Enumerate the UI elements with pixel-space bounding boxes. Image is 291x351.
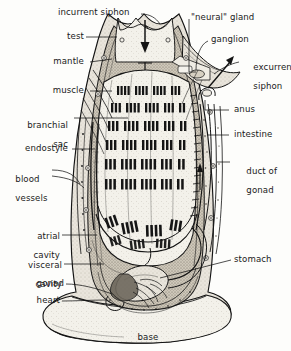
anus-opening (203, 90, 212, 96)
label-excurrent-siphon-line2: siphon (253, 81, 282, 91)
label-stomach: stomach (234, 255, 272, 265)
label-atrial-cavity-line1: atrial (37, 231, 60, 241)
anatomy-figure: incurrent siphon test mantle muscle bran… (0, 0, 291, 351)
label-test: test (36, 32, 84, 42)
label-intestine: intestine (234, 130, 272, 140)
label-blood-vessels: blood vessels (4, 165, 64, 213)
label-duct-of-gonad-line1: duct of (246, 166, 277, 176)
label-duct-of-gonad-line2: gonad (246, 185, 273, 195)
label-base: base (120, 333, 176, 343)
label-heart: heart (18, 296, 60, 306)
label-mantle: mantle (26, 57, 84, 67)
label-ganglion: ganglion (211, 35, 249, 45)
label-visceral-cavity-line1: visceral (28, 260, 62, 270)
label-anus: anus (234, 105, 255, 115)
label-excurrent-siphon: excurrent siphon (242, 53, 291, 101)
label-neural-gland: "neural" gland (191, 13, 254, 23)
label-branchial-sac-line1: branchial (27, 120, 68, 130)
label-endostyle: endostyle (6, 144, 68, 154)
label-gonad: gonad (20, 279, 64, 289)
label-excurrent-siphon-line1: excurrent (253, 62, 291, 72)
label-blood-vessels-line1: blood (15, 174, 39, 184)
label-duct-of-gonad: duct of gonad (235, 157, 277, 205)
label-blood-vessels-line2: vessels (15, 193, 47, 203)
label-incurrent-siphon: incurrent siphon (58, 8, 130, 18)
label-muscle: muscle (26, 86, 84, 96)
label-visceral-cavity: visceral cavity (8, 251, 62, 299)
